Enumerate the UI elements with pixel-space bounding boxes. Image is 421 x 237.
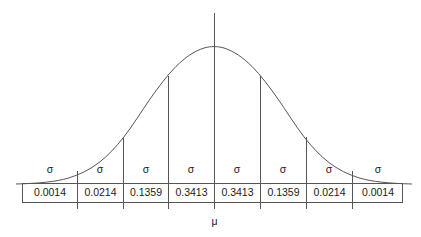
probability-cell-2: 0.0214 [84, 186, 116, 198]
bell-curve-svg: σ σ σ σ σ σ σ σ 0.0014 0.0214 0.1359 0.3… [0, 0, 421, 237]
sigma-label-band-2: σ [97, 163, 104, 175]
sigma-label-band-5: σ [234, 163, 241, 175]
normal-distribution-figure: σ σ σ σ σ σ σ σ 0.0014 0.0214 0.1359 0.3… [0, 0, 421, 237]
sigma-label-band-4: σ [188, 163, 195, 175]
sigma-label-band-7: σ [326, 163, 333, 175]
sigma-label-band-8: σ [375, 163, 382, 175]
sigma-label-band-3: σ [143, 163, 150, 175]
probability-cell-1: 0.0014 [34, 186, 66, 198]
probability-cell-5: 0.3413 [221, 186, 253, 198]
sigma-label-band-6: σ [280, 163, 287, 175]
probability-cell-6: 0.1359 [267, 186, 299, 198]
sigma-label-band-1: σ [47, 163, 54, 175]
probability-cell-4: 0.3413 [175, 186, 207, 198]
mean-axis-label: μ [211, 215, 217, 227]
probability-cell-7: 0.0214 [313, 186, 345, 198]
probability-cell-8: 0.0014 [362, 186, 394, 198]
probability-cell-3: 0.1359 [130, 186, 162, 198]
